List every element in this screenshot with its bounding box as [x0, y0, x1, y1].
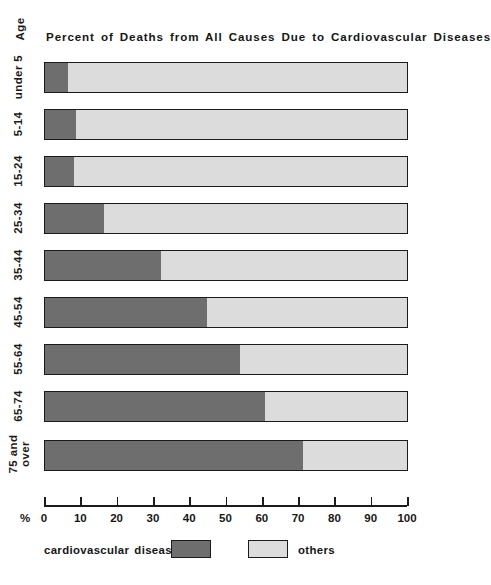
legend: cardiovascular diseases others [0, 538, 428, 564]
x-tick [117, 497, 119, 506]
bar-row [44, 156, 408, 187]
x-tick [153, 497, 155, 506]
x-tick-label: 100 [397, 512, 416, 524]
bar-segment-others [265, 392, 407, 421]
x-tick-label: 90 [364, 512, 377, 524]
bar-segment-cardiovascular [45, 298, 208, 327]
x-tick-label: 20 [110, 512, 123, 524]
x-tick [334, 497, 336, 506]
x-tick [262, 497, 264, 506]
bar-segment-cardiovascular [45, 441, 304, 470]
bar-row [44, 62, 408, 93]
x-tick-label: 50 [219, 512, 232, 524]
bar-segment-cardiovascular [45, 157, 75, 186]
legend-swatch-cardiovascular [171, 540, 211, 558]
bar-segment-cardiovascular [45, 392, 266, 421]
bar-row [44, 109, 408, 140]
legend-swatch-others [248, 540, 288, 558]
x-tick [80, 497, 82, 506]
bar-segment-others [207, 298, 407, 327]
x-tick [189, 497, 191, 506]
bar-segment-others [104, 204, 407, 233]
bar-segment-others [303, 441, 407, 470]
bar-segment-others [161, 251, 407, 280]
bar-segment-others [240, 345, 407, 374]
plot-area [0, 0, 428, 495]
bar-row [44, 297, 408, 328]
x-tick-label: 0 [41, 512, 47, 524]
bar-segment-others [76, 110, 407, 139]
x-axis-unit-label: % [20, 512, 30, 524]
x-tick [371, 497, 373, 506]
bar-segment-cardiovascular [45, 345, 241, 374]
x-tick-label: 60 [255, 512, 268, 524]
bar-segment-cardiovascular [45, 251, 162, 280]
x-tick [226, 497, 228, 506]
x-axis [44, 505, 407, 507]
x-tick [407, 497, 409, 506]
x-tick [298, 497, 300, 506]
x-tick-label: 10 [74, 512, 87, 524]
legend-label-others: others [298, 544, 335, 556]
bar-row [44, 250, 408, 281]
legend-label-cardiovascular: cardiovascular diseases [44, 544, 185, 556]
bar-segment-cardiovascular [45, 110, 77, 139]
bar-segment-others [74, 157, 407, 186]
bar-row [44, 440, 408, 471]
bar-row [44, 344, 408, 375]
bar-segment-cardiovascular [45, 204, 105, 233]
bar-segment-cardiovascular [45, 63, 69, 92]
x-tick [44, 497, 46, 506]
x-tick-label: 80 [328, 512, 341, 524]
x-tick-label: 30 [146, 512, 159, 524]
x-tick-label: 40 [183, 512, 196, 524]
bar-row [44, 391, 408, 422]
x-tick-label: 70 [292, 512, 305, 524]
bar-row [44, 203, 408, 234]
bar-segment-others [68, 63, 407, 92]
